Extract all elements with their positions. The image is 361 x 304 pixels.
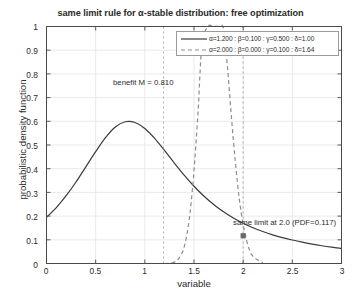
legend-row-series-1: α=1.200 : β=0.100 : γ=0.500 : δ=1.00 (179, 33, 336, 44)
legend-label-series-2: α=2.000 : β=0.000 : γ=0.100 : δ=1.64 (209, 46, 314, 53)
legend-label-series-1: α=1.200 : β=0.100 : γ=0.500 : δ=1.00 (209, 35, 314, 42)
data-markers (241, 233, 246, 238)
legend-row-series-2: α=2.000 : β=0.000 : γ=0.100 : δ=1.64 (179, 44, 336, 55)
grid-lines (47, 27, 342, 264)
chart-figure: same limit rule for α-stable distributio… (0, 0, 361, 304)
benefit-annotation: benefit M = 0.810 (113, 78, 173, 87)
same-limit-annotation: same limit at 2.0 (PDF=0.117) (233, 218, 336, 227)
legend-line-solid-icon (179, 34, 209, 44)
legend-line-dashed-icon (179, 45, 209, 55)
series-line-alpha-2000 (165, 25, 263, 263)
legend: α=1.200 : β=0.100 : γ=0.500 : δ=1.00 α=2… (176, 31, 339, 56)
